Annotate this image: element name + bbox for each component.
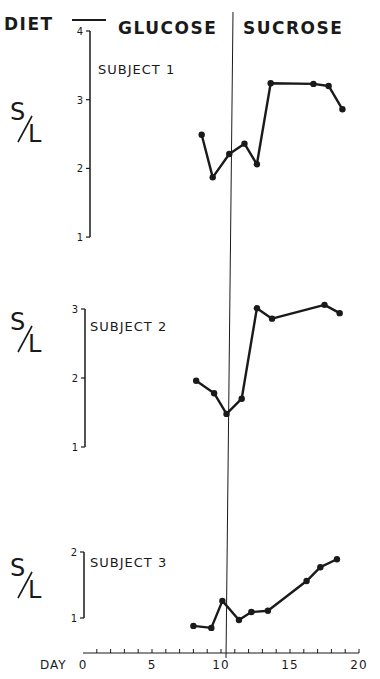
y-tick-label: 2 xyxy=(71,547,77,558)
data-point xyxy=(325,83,331,89)
x-tick-label: 0 xyxy=(79,658,88,672)
data-point xyxy=(310,81,316,87)
chart-figure: DIET GLUCOSE SUCROSE 1234SLSUBJECT 1123S… xyxy=(0,0,380,679)
data-line xyxy=(196,305,340,414)
data-point xyxy=(339,106,345,112)
data-point xyxy=(239,396,245,402)
data-point xyxy=(269,315,275,321)
y-tick-label: 1 xyxy=(71,613,77,624)
panel-subject-3: 12SLSUBJECT 3 xyxy=(10,547,340,631)
data-point xyxy=(190,623,196,629)
y-tick-label: 2 xyxy=(77,163,83,174)
data-point xyxy=(193,378,199,384)
y-axis-label: SL xyxy=(10,308,42,358)
data-point xyxy=(265,608,271,614)
data-point xyxy=(223,411,229,417)
data-point xyxy=(334,556,340,562)
y-axis-label: SL xyxy=(10,98,42,148)
data-line xyxy=(193,559,337,628)
data-point xyxy=(236,617,242,623)
data-point xyxy=(198,132,204,138)
panel-subject-2: 123SLSUBJECT 2 xyxy=(10,302,343,453)
data-point xyxy=(317,564,323,570)
diet-divider-line xyxy=(226,12,233,658)
x-axis: DAY 05101520 xyxy=(40,649,368,672)
y-tick-label: 3 xyxy=(77,95,83,106)
x-tick-label: 15 xyxy=(281,658,298,672)
y-tick-label: 2 xyxy=(72,373,78,384)
subject-title: SUBJECT 3 xyxy=(90,555,167,570)
data-point xyxy=(241,140,247,146)
y-tick-label: 1 xyxy=(77,232,83,243)
x-tick-label: 5 xyxy=(148,658,157,672)
glucose-label: GLUCOSE xyxy=(118,18,217,38)
svg-text:L: L xyxy=(28,120,42,148)
subject-title: SUBJECT 2 xyxy=(90,319,167,334)
data-point xyxy=(211,390,217,396)
subject-title: SUBJECT 1 xyxy=(98,62,175,77)
svg-text:S: S xyxy=(10,554,25,582)
svg-text:S: S xyxy=(10,98,25,126)
x-tick-label: 10 xyxy=(212,658,229,672)
y-tick-label: 1 xyxy=(72,442,78,453)
data-point xyxy=(303,578,309,584)
y-tick-label: 4 xyxy=(77,26,83,37)
data-point xyxy=(219,598,225,604)
svg-text:L: L xyxy=(28,330,42,358)
data-point xyxy=(208,625,214,631)
data-point xyxy=(267,80,273,86)
data-point xyxy=(210,174,216,180)
data-point xyxy=(321,302,327,308)
data-line xyxy=(202,83,343,177)
data-point xyxy=(248,609,254,615)
data-point xyxy=(226,151,232,157)
x-axis-label: DAY xyxy=(40,658,67,672)
y-tick-label: 3 xyxy=(72,304,78,315)
panel-subject-1: 1234SLSUBJECT 1 xyxy=(10,26,346,243)
data-point xyxy=(254,305,260,311)
data-point xyxy=(254,161,260,167)
diet-label: DIET xyxy=(4,14,54,34)
svg-text:L: L xyxy=(28,576,42,604)
sucrose-label: SUCROSE xyxy=(243,18,343,38)
x-tick-label: 20 xyxy=(350,658,367,672)
y-axis-label: SL xyxy=(10,554,42,604)
data-point xyxy=(336,310,342,316)
svg-text:S: S xyxy=(10,308,25,336)
